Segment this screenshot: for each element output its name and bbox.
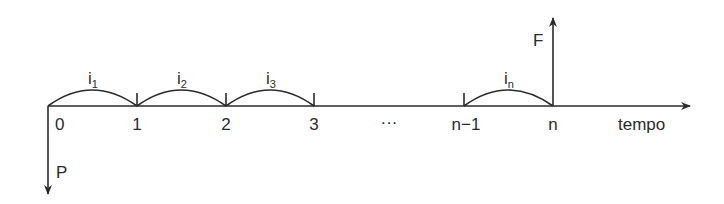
outflow-label-P: P	[56, 163, 67, 182]
period-label-3: 3	[309, 115, 318, 134]
period-label-2: 2	[221, 115, 230, 134]
interest-arc-1	[48, 90, 137, 106]
rate-label-n: in	[504, 69, 514, 90]
inflow-label-F: F	[533, 31, 543, 50]
period-label-n-minus-1: n−1	[452, 115, 481, 134]
interest-arc-3	[226, 90, 314, 106]
rate-label-2: i2	[177, 69, 187, 90]
axis-label-tempo: tempo	[618, 115, 665, 134]
interest-arc-n	[464, 90, 553, 106]
interest-arc-2	[137, 90, 226, 106]
period-label-n: n	[548, 115, 557, 134]
ellipsis-label: ···	[381, 113, 398, 132]
cash-flow-diagram: i1 i2 i3 in 0 1 2 3 ··· n−1 n tempo F P	[0, 0, 724, 204]
rate-label-1: i1	[88, 69, 98, 90]
rate-label-3: i3	[266, 69, 276, 90]
period-label-1: 1	[132, 115, 141, 134]
period-label-0: 0	[55, 115, 64, 134]
